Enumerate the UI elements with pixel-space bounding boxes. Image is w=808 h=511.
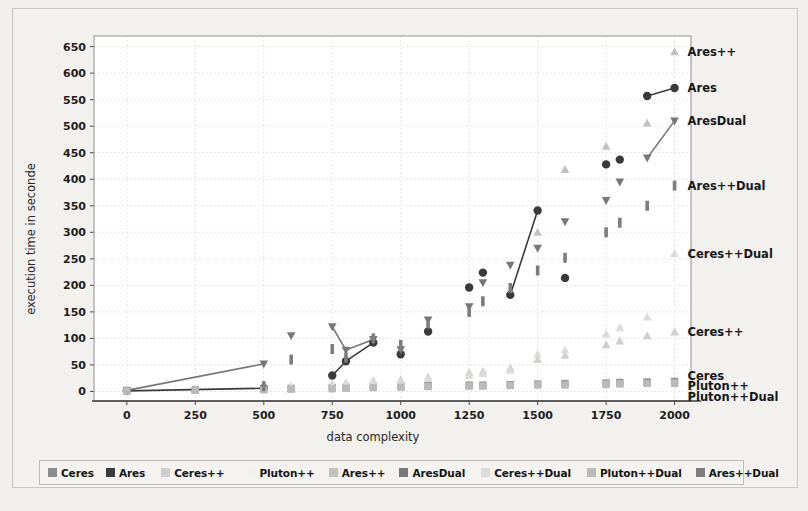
data-point[interactable] (370, 384, 377, 391)
x-axis-label: data complexity (327, 430, 420, 444)
data-point[interactable] (644, 380, 651, 387)
data-point[interactable] (561, 381, 568, 388)
legend-item[interactable]: Pluton++ (246, 467, 314, 479)
data-point[interactable] (508, 283, 512, 293)
legend-swatch-icon (161, 468, 170, 477)
y-tick-label: 350 (63, 200, 86, 213)
x-tick-label: 2000 (659, 409, 690, 422)
data-point[interactable] (616, 155, 624, 163)
data-point[interactable] (643, 92, 651, 100)
y-tick-label: 100 (63, 332, 86, 345)
y-tick-label: 0 (78, 385, 86, 398)
data-point[interactable] (481, 296, 485, 306)
data-point[interactable] (262, 381, 266, 391)
data-point[interactable] (330, 344, 334, 354)
legend-item[interactable]: Ceres (48, 467, 94, 479)
data-point[interactable] (616, 380, 623, 387)
figure-panel: 0501001502002503003504004505005506006500… (12, 8, 798, 488)
data-point[interactable] (618, 218, 622, 228)
legend-label: Pluton++ (259, 467, 314, 479)
y-axis-label: execution time in seconde (24, 163, 38, 315)
legend-item[interactable]: Ares++Dual (696, 467, 779, 479)
data-point[interactable] (467, 307, 471, 317)
y-tick-label: 650 (63, 41, 86, 54)
legend-item[interactable]: Pluton++Dual (587, 467, 682, 479)
legend-item[interactable]: Ares (106, 467, 145, 479)
series-annotation: Ares (688, 81, 717, 95)
legend-label: Ares++ (342, 467, 386, 479)
data-point[interactable] (561, 274, 569, 282)
x-tick-label: 250 (184, 409, 207, 422)
series-annotations: Ares++AresAresDualAres++DualCeres++DualC… (688, 45, 779, 404)
data-point[interactable] (671, 380, 678, 387)
screenshot-root: 0501001502002503003504004505005506006500… (0, 0, 808, 511)
data-point[interactable] (344, 352, 348, 362)
data-point[interactable] (533, 206, 541, 214)
data-point[interactable] (328, 371, 336, 379)
data-point[interactable] (645, 201, 649, 211)
data-point[interactable] (673, 181, 677, 191)
x-tick-label: 500 (252, 409, 275, 422)
series-annotation: Ares++ (688, 45, 737, 59)
y-tick-label: 450 (63, 147, 86, 160)
data-point[interactable] (372, 333, 376, 343)
data-point[interactable] (670, 84, 678, 92)
legend-label: Ares (119, 467, 145, 479)
data-point[interactable] (397, 384, 404, 391)
legend-swatch-icon (399, 468, 408, 477)
data-point[interactable] (466, 383, 473, 390)
y-tick-label: 200 (63, 279, 86, 292)
legend-swatch-icon (481, 468, 490, 477)
legend-item[interactable]: Ceres++Dual (481, 467, 571, 479)
data-point[interactable] (536, 265, 540, 275)
data-point[interactable] (534, 381, 541, 388)
series-annotation: Ceres++ (688, 325, 744, 339)
legend-swatch-icon (246, 468, 255, 477)
y-tick-label: 300 (63, 226, 86, 239)
data-point[interactable] (123, 387, 130, 394)
y-tick-label: 50 (71, 359, 87, 372)
data-point[interactable] (507, 382, 514, 389)
legend-label: Ceres++ (174, 467, 224, 479)
data-point[interactable] (289, 355, 293, 365)
series-annotation: Ceres++Dual (688, 247, 773, 261)
data-point[interactable] (288, 386, 295, 393)
legend-swatch-icon (329, 468, 338, 477)
series-annotation: AresDual (688, 114, 747, 128)
data-point[interactable] (604, 227, 608, 237)
data-point[interactable] (399, 340, 403, 350)
legend-swatch-icon (106, 468, 115, 477)
data-point[interactable] (563, 253, 567, 263)
legend-label: Pluton++Dual (600, 467, 682, 479)
y-tick-label: 250 (63, 253, 86, 266)
y-tick-label: 400 (63, 173, 86, 186)
data-point[interactable] (424, 327, 432, 335)
legend-swatch-icon (696, 468, 705, 477)
x-tick-label: 1750 (591, 409, 622, 422)
chart-legend: CeresAresCeres++Pluton++Ares++AresDualCe… (39, 460, 744, 485)
legend-item[interactable]: Ares++ (329, 467, 386, 479)
y-tick-label: 150 (63, 306, 86, 319)
data-point[interactable] (602, 160, 610, 168)
series-annotation: Ares++Dual (688, 179, 766, 193)
legend-label: AresDual (412, 467, 465, 479)
data-point[interactable] (342, 385, 349, 392)
execution-time-scatter-chart[interactable]: 0501001502002503003504004505005506006500… (13, 9, 797, 487)
x-tick-label: 0 (123, 409, 131, 422)
data-point[interactable] (425, 383, 432, 390)
data-point[interactable] (192, 387, 199, 394)
y-tick-label: 500 (63, 120, 86, 133)
y-tick-label: 550 (63, 94, 86, 107)
legend-swatch-icon (48, 468, 57, 477)
data-point[interactable] (479, 268, 487, 276)
legend-label: Ceres (61, 467, 94, 479)
legend-item[interactable]: AresDual (399, 467, 465, 479)
data-point[interactable] (426, 319, 430, 329)
plot-background-group (94, 36, 691, 401)
data-point[interactable] (603, 381, 610, 388)
data-point[interactable] (479, 383, 486, 390)
data-point[interactable] (329, 385, 336, 392)
y-tick-label: 600 (63, 67, 86, 80)
data-point[interactable] (465, 283, 473, 291)
legend-item[interactable]: Ceres++ (161, 467, 224, 479)
